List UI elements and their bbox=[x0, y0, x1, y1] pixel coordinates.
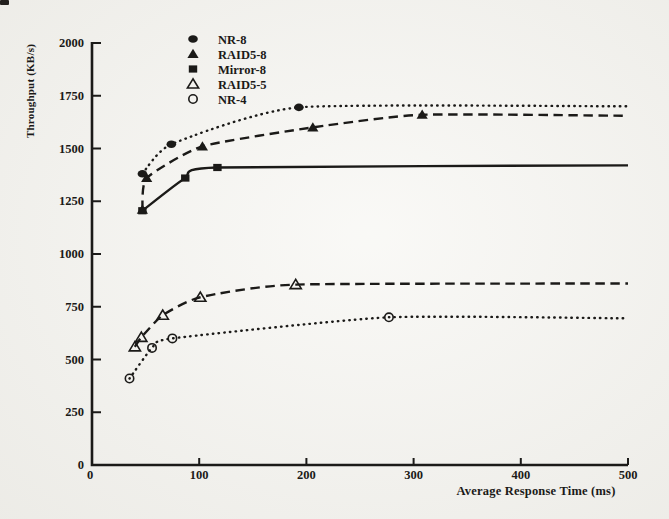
marker-Mirror-8-2 bbox=[213, 164, 221, 171]
series-line-RAID5-5 bbox=[135, 284, 628, 347]
legend-label-RAID5-8: RAID5-8 bbox=[218, 48, 267, 62]
axes-lines bbox=[92, 42, 628, 465]
x-tick-label-500: 500 bbox=[619, 468, 638, 482]
x-tick-label-200: 200 bbox=[297, 468, 316, 482]
legend-marker-RAID5-8 bbox=[187, 49, 198, 58]
marker-RAID5-8-2 bbox=[197, 141, 208, 150]
y-tick-label-500: 500 bbox=[65, 353, 84, 367]
x-axis-label: Average Response Time (ms) bbox=[443, 484, 629, 499]
y-tick-label-1000: 1000 bbox=[59, 247, 84, 261]
y-tick-label-750: 750 bbox=[65, 300, 84, 314]
y-axis-label: Throughput (KB/s) bbox=[24, 44, 36, 138]
legend-label-NR-8: NR-8 bbox=[218, 33, 246, 47]
y-tick-label-1500: 1500 bbox=[59, 142, 84, 156]
marker-Mirror-8-0 bbox=[138, 207, 146, 214]
x-tick-label-100: 100 bbox=[190, 468, 209, 482]
chart-canvas: 0250500750100012501500175020000100200300… bbox=[0, 0, 669, 519]
legend-label-RAID5-5: RAID5-5 bbox=[218, 78, 267, 92]
series-line-NR-4 bbox=[130, 317, 628, 379]
series-line-Mirror-8 bbox=[142, 165, 628, 210]
legend-marker-Mirror-8 bbox=[189, 65, 197, 72]
legend-label-NR-4: NR-4 bbox=[218, 93, 247, 107]
series-line-RAID5-8 bbox=[142, 114, 628, 209]
x-tick-label-400: 400 bbox=[511, 468, 530, 482]
x-tick-label-0: 0 bbox=[87, 468, 93, 482]
marker-NR-8-2 bbox=[294, 104, 304, 112]
y-tick-label-0: 0 bbox=[78, 458, 84, 472]
y-tick-label-2000: 2000 bbox=[59, 36, 84, 50]
legend-marker-RAID5-5 bbox=[187, 79, 198, 88]
marker-NR-4-1 bbox=[148, 344, 156, 352]
y-tick-label-250: 250 bbox=[65, 405, 84, 419]
y-tick-label-1250: 1250 bbox=[59, 194, 84, 208]
legend-marker-NR-8 bbox=[188, 35, 198, 43]
marker-Mirror-8-1 bbox=[181, 174, 189, 181]
x-tick-label-300: 300 bbox=[404, 468, 423, 482]
marker-NR-8-1 bbox=[167, 140, 177, 148]
legend-label-Mirror-8: Mirror-8 bbox=[218, 63, 266, 77]
figure: 0250500750100012501500175020000100200300… bbox=[0, 0, 669, 519]
scan-artifact bbox=[0, 0, 9, 5]
y-tick-label-1750: 1750 bbox=[59, 89, 84, 103]
legend-marker-NR-4 bbox=[189, 95, 197, 103]
